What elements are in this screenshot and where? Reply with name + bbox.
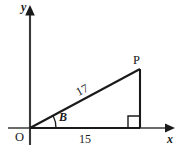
figure-canvas (0, 0, 183, 158)
triangle-hypotenuse (30, 69, 140, 128)
origin-label: O (15, 131, 24, 144)
right-angle-marker (128, 116, 140, 128)
y-axis-label: y (21, 1, 26, 13)
angle-b-label: B (59, 111, 67, 123)
x-axis-label: x (167, 133, 173, 145)
y-axis-arrowhead (25, 5, 35, 16)
geometry-figure: y x O P B 17 15 (0, 0, 183, 158)
angle-arc-b (53, 116, 56, 128)
base-length-label: 15 (79, 133, 91, 145)
point-p-label: P (133, 54, 140, 67)
